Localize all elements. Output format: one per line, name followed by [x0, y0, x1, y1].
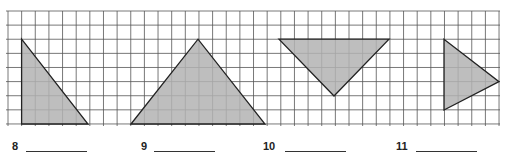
answer-blank-11[interactable] [416, 151, 477, 152]
problem-number-8: 8 [12, 140, 18, 152]
graph-paper [0, 0, 512, 140]
answer-blank-9[interactable] [154, 151, 215, 152]
problem-number-10: 10 [263, 140, 275, 152]
problem-number-11: 11 [396, 140, 408, 152]
problem-number-9: 9 [141, 140, 147, 152]
answer-blank-8[interactable] [26, 151, 87, 152]
answer-blank-10[interactable] [285, 151, 346, 152]
